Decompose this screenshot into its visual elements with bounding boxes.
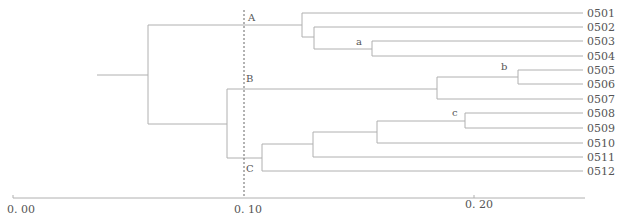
leaf-label: 0510: [587, 137, 615, 150]
dendrogram-branches: [97, 13, 583, 171]
leaf-label: 0505: [587, 64, 615, 77]
leaf-label: 0502: [587, 21, 615, 34]
leaf-label: 0506: [587, 78, 615, 91]
cluster-label-C: C: [246, 163, 254, 174]
cluster-label-b: b: [501, 61, 507, 72]
leaf-label: 0509: [587, 122, 615, 135]
leaf-label: 0504: [587, 50, 615, 63]
tick-label-2: 0. 20: [465, 198, 493, 211]
tick-label-1: 0. 10: [234, 203, 262, 216]
leaf-label: 0503: [587, 35, 615, 48]
leaf-label: 0512: [587, 165, 615, 178]
leaf-label: 0501: [587, 7, 615, 20]
leaf-label: 0507: [587, 93, 615, 106]
leaf-label: 0511: [587, 151, 615, 164]
cluster-label-a: a: [356, 36, 362, 47]
cluster-label-A: A: [247, 12, 256, 23]
leaf-label: 0508: [587, 107, 615, 120]
dendrogram-chart: 0. 00 0. 10 0. 20 A B C a b c 0501 0502 …: [0, 0, 621, 223]
cluster-label-c: c: [452, 107, 458, 118]
tick-label-0: 0. 00: [7, 203, 35, 216]
cluster-label-B: B: [246, 73, 253, 84]
